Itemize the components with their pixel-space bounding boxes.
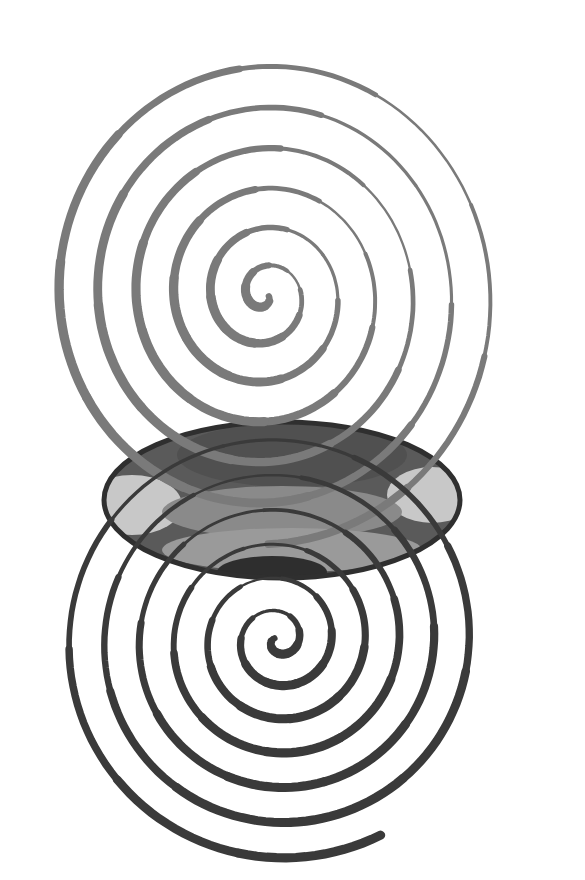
spiral-stroke [196, 148, 281, 172]
spiral-stroke [267, 738, 341, 753]
spiral-stroke [136, 243, 143, 331]
spiral-stroke [211, 297, 226, 329]
spiral-stroke [202, 718, 266, 752]
spiral-stroke [321, 115, 415, 185]
spiral-stroke [317, 597, 332, 631]
spiral-stroke [290, 616, 299, 630]
spiral-stroke [366, 254, 376, 328]
spiral-stroke [339, 647, 365, 697]
spiral-stroke [281, 149, 364, 186]
spiral-stroke [323, 631, 332, 665]
spiral-stroke [391, 599, 400, 679]
spiral-stroke [406, 627, 435, 725]
spiral-stroke [264, 393, 334, 422]
spiral-stroke [255, 188, 319, 201]
spiral-stroke [240, 706, 290, 719]
spiral-stroke [211, 667, 240, 706]
spiral-stroke [287, 230, 323, 255]
spiral-stroke [403, 671, 466, 778]
spiral-stroke [299, 290, 302, 316]
spiral-stroke [123, 120, 208, 194]
spiral-stroke [69, 649, 117, 779]
spiral-stroke [448, 546, 470, 671]
spiral-stroke [240, 66, 376, 95]
spiral-stroke [139, 623, 157, 714]
spiral-stroke [186, 338, 228, 376]
spiral-stroke [212, 587, 241, 621]
spiral-stroke [98, 194, 124, 305]
spiral-stroke [376, 95, 471, 205]
spiral-stroke [353, 590, 365, 647]
spiral-stroke [269, 265, 288, 271]
spiral-stroke [266, 682, 296, 685]
spiral-stroke [228, 776, 325, 787]
spiral-stroke [246, 228, 287, 233]
spiral-stroke [253, 265, 269, 272]
spiral-stroke [471, 205, 490, 357]
spiral-stroke [334, 328, 372, 394]
spiral-stroke [282, 579, 317, 597]
spiral-stroke [208, 620, 213, 667]
spiral-stroke [253, 611, 273, 619]
spiral-stroke [98, 305, 141, 407]
spiral-stroke [110, 691, 176, 787]
spiral-stroke [398, 270, 413, 370]
spiral-stroke [238, 835, 381, 858]
spiral-stroke [287, 271, 300, 290]
spiral-stroke [411, 305, 451, 425]
spiral-stroke [319, 201, 365, 254]
spiral-stroke [190, 399, 265, 422]
spiral-stroke [290, 697, 339, 719]
spiral-stroke [174, 278, 187, 338]
spiral-stroke [104, 577, 118, 691]
spiral-stroke [323, 255, 338, 301]
spiral-stroke [416, 186, 452, 305]
spiral-stroke [59, 262, 87, 398]
spiral-stroke [210, 260, 217, 297]
spiral-stroke [200, 190, 256, 221]
spiral-stroke [174, 653, 202, 717]
spiral-stroke [174, 220, 200, 278]
spiral-stroke [176, 787, 290, 822]
spiral-stroke [209, 108, 322, 120]
spiral-stroke [272, 611, 290, 617]
spiral-stroke [229, 376, 282, 382]
spiral-drawing-svg [0, 0, 585, 880]
spiral-stroke [119, 69, 240, 134]
spiral-stroke [323, 300, 338, 348]
spiral-stroke [218, 233, 247, 260]
spiral-stroke [297, 664, 323, 683]
spiral-stroke [324, 724, 405, 781]
spiral-stroke [174, 588, 192, 654]
spiral-stroke [364, 185, 411, 270]
spiral-stroke [157, 714, 228, 777]
spiral-stroke [61, 134, 119, 261]
spiral-stroke [281, 349, 323, 379]
spiral-artwork [0, 0, 585, 880]
